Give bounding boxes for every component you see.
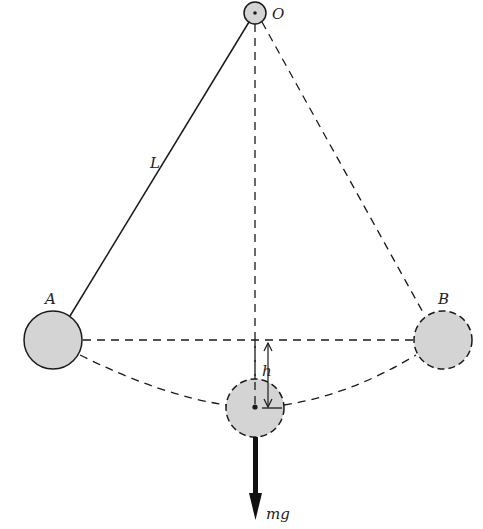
label-h: h xyxy=(262,362,272,380)
label-O: O xyxy=(272,5,284,23)
pendulum-diagram: O L A B h mg xyxy=(0,0,483,529)
pivot-O xyxy=(244,2,266,24)
label-L: L xyxy=(149,154,160,172)
bob-A xyxy=(24,311,82,369)
bob-B xyxy=(414,311,472,369)
label-mg: mg xyxy=(266,505,290,523)
label-B: B xyxy=(437,290,449,308)
string-line-dashed-B xyxy=(262,22,425,316)
bob-center-dot xyxy=(252,404,257,409)
gravity-force-arrow xyxy=(249,437,262,520)
label-A: A xyxy=(43,290,56,308)
